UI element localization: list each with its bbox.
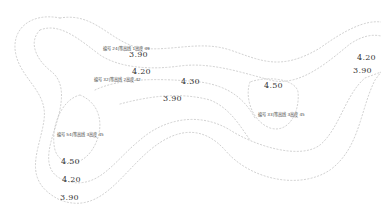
contour-note: 编号 24|等高线 1高度 39 [103,47,150,51]
contour-map: 3.90 4.20 4.30 3.90 4.50 4.20 3.90 4.50 … [0,0,381,209]
elevation-label: 4.30 [181,78,200,86]
elevation-label: 4.50 [61,158,80,166]
elevation-label: 4.20 [62,176,81,184]
contour-note: 编号 54|等高线 3高度 45 [57,133,104,137]
elevation-label: 4.50 [264,82,283,90]
elevation-label: 4.20 [357,54,376,62]
contour-3-90-upper [60,17,381,62]
contour-4-20 [34,30,381,183]
elevation-label: 3.90 [353,67,372,75]
contour-note: 编号 33|等高线 3高度 45 [258,113,305,117]
contour-note: 编号 32|等高线 2高度 42 [94,78,141,82]
contour-3-90-mid [120,96,250,140]
elevation-label: 3.90 [60,194,79,202]
contour-4-20-upper [40,28,381,81]
elevation-label: 3.90 [129,51,148,59]
elevation-label: 3.90 [163,95,182,103]
elevation-label: 4.20 [132,68,151,76]
contour-lines [0,0,381,209]
